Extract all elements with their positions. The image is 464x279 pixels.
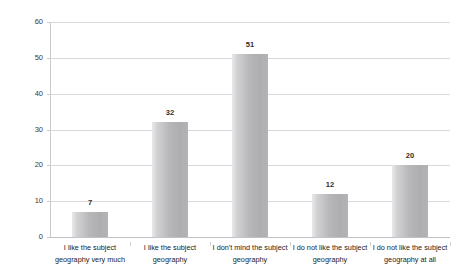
x-axis-category-label: I do not like the subjectgeography at al… — [370, 242, 450, 265]
bar[interactable]: 20 — [392, 165, 428, 237]
bar-chart: 6050403020100 732511220 I like the subje… — [0, 0, 464, 279]
bar-value-label: 32 — [166, 109, 174, 117]
x-axis-labels: I like the subjectgeography very muchI l… — [50, 242, 450, 265]
bar-value-label: 20 — [406, 152, 414, 160]
gridline: 0 — [50, 237, 450, 238]
bar-value-label: 7 — [88, 199, 92, 207]
x-axis-category-label: I like the subjectgeography very much — [50, 242, 130, 265]
x-axis-label-line1: I do not like the subject — [291, 242, 369, 254]
x-axis-category-label: I do not like the subjectgeography — [290, 242, 370, 265]
bar[interactable]: 12 — [312, 194, 348, 237]
x-axis-label-line1: I do not like the subject — [371, 242, 449, 254]
y-axis-tick-label: 40 — [3, 90, 43, 98]
chart-title — [0, 0, 464, 5]
x-axis-category-label: I like the subjectgeography — [130, 242, 210, 265]
bar[interactable]: 7 — [72, 212, 108, 237]
bar-slot: 20 — [370, 22, 450, 237]
y-axis-tick-label: 0 — [3, 233, 43, 241]
x-axis-tick-mark — [290, 242, 291, 246]
bar-slot: 7 — [50, 22, 130, 237]
x-axis-label-line1: I like the subject — [51, 242, 129, 254]
y-axis-tick-label: 10 — [3, 197, 43, 205]
bar-value-label: 12 — [326, 181, 334, 189]
plot-area: 6050403020100 732511220 — [50, 22, 450, 237]
x-axis-label-line2: geography — [291, 254, 369, 266]
x-axis-label-line2: geography very much — [51, 254, 129, 266]
x-axis-tick-mark — [370, 242, 371, 246]
bar-slot: 32 — [130, 22, 210, 237]
bar[interactable]: 51 — [232, 54, 268, 237]
x-axis-label-line1: I like the subject — [131, 242, 209, 254]
x-axis-label-line2: geography — [131, 254, 209, 266]
bar-value-label: 51 — [246, 41, 254, 49]
x-axis-category-label: I don't mind the subjectgeography — [210, 242, 290, 265]
y-axis-tick-label: 50 — [3, 54, 43, 62]
y-axis-tick-label: 20 — [3, 162, 43, 170]
y-axis-tick-label: 60 — [3, 18, 43, 26]
x-axis-tick-mark — [210, 242, 211, 246]
bar[interactable]: 32 — [152, 122, 188, 237]
y-axis-tick-label: 30 — [3, 126, 43, 134]
x-axis-tick-mark — [130, 242, 131, 246]
bar-series: 732511220 — [50, 22, 450, 237]
x-axis-label-line1: I don't mind the subject — [211, 242, 289, 254]
bar-slot: 51 — [210, 22, 290, 237]
y-axis-tick-mark — [47, 237, 50, 238]
x-axis-tick-mark — [450, 242, 451, 246]
bar-slot: 12 — [290, 22, 370, 237]
x-axis-label-line2: geography — [211, 254, 289, 266]
x-axis-label-line2: geography at all — [371, 254, 449, 266]
